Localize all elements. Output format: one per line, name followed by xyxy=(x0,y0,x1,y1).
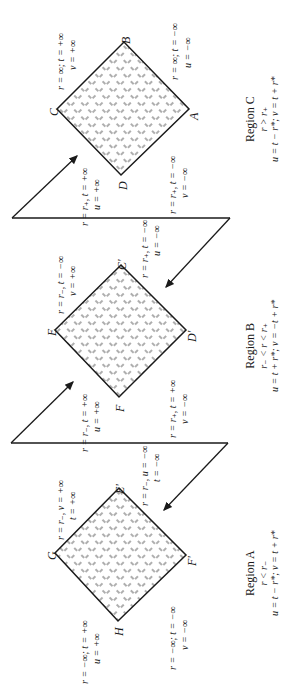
edge-label-hf-1: r = −∞; t = −∞ xyxy=(168,606,178,670)
edge-label-cd-prime-2: u = −∞ xyxy=(152,225,162,256)
edge-label-ef-2: u = +∞ xyxy=(92,401,102,432)
edge-label-ef-prime-1: r = r₋, u = −∞ xyxy=(140,446,150,506)
region-c-caption: Region C r > r₊ u = t − r*; v = t + r* xyxy=(244,76,281,162)
edge-label-da-1: r = r₊, t = −∞ xyxy=(168,156,178,214)
edge-label-ef-1: r = r₋, t = +∞ xyxy=(80,394,90,452)
region-b-caption: Region B r₋ < r < r₊ u = t + r*; v = −t … xyxy=(244,300,281,392)
vertex-label-c-prime: C' xyxy=(116,259,128,270)
vertex-label-c: C xyxy=(48,108,60,116)
region-a-condition: r < r₋ xyxy=(258,530,270,616)
edge-label-cb-1: r = ∞; t = +∞ xyxy=(56,33,66,90)
vertex-label-e-prime: E' xyxy=(114,484,126,494)
region-a-title: Region A xyxy=(244,530,258,616)
region-a-equation: u = t − r*; v = t + r* xyxy=(269,530,281,616)
edge-label-fd-1: r = r₊, t = +∞ xyxy=(168,380,178,438)
edge-label-ef-prime-2: t = −∞ xyxy=(152,454,162,482)
edge-label-cd-prime-1: r = r₊, t = −∞ xyxy=(140,220,150,278)
edge-label-ge-1: r = r₋, v = +∞ xyxy=(56,480,66,540)
edge-label-ba-2: u = −∞ xyxy=(183,37,193,68)
vertex-label-a: A xyxy=(188,113,200,120)
edge-label-hf-2: v = −∞ xyxy=(180,620,190,650)
vertex-label-f-prime: F' xyxy=(186,556,198,566)
edge-label-cb-2: v = +∞ xyxy=(68,40,78,70)
edge-label-ge-2: t = +∞ xyxy=(68,492,78,520)
edge-label-ec-1: r = r₋, t = −∞ xyxy=(56,256,66,314)
edge-label-gh-2: u = +∞ xyxy=(92,633,102,664)
region-c-equation: u = t − r*; v = t + r* xyxy=(269,76,281,162)
region-c-title: Region C xyxy=(244,76,258,162)
region-b-condition: r₋ < r < r₊ xyxy=(258,300,270,392)
vertex-label-e: E xyxy=(46,329,58,336)
vertex-label-d-prime: D' xyxy=(186,331,198,342)
region-a-caption: Region A r < r₋ u = t − r*; v = t + r* xyxy=(244,530,281,616)
edge-label-fd-2: v = −∞ xyxy=(180,394,190,424)
edge-label-da-2: v = −∞ xyxy=(180,168,190,198)
region-b-equation: u = t + r*; v = −t + r* xyxy=(269,300,281,392)
region-b-title: Region B xyxy=(244,300,258,392)
region-c-condition: r > r₊ xyxy=(258,76,270,162)
edge-label-cd-2: u = +∞ xyxy=(92,179,102,210)
vertex-label-h: H xyxy=(113,627,125,636)
vertex-label-d: D xyxy=(117,181,129,190)
edge-label-cd-1: r = r₊, t = +∞ xyxy=(80,168,90,226)
edge-label-ec-2: v = +∞ xyxy=(68,266,78,296)
edge-label-ba-1: r = ∞; t = −∞ xyxy=(170,23,180,80)
vertex-label-g: G xyxy=(46,551,58,560)
vertex-label-b: B xyxy=(120,37,132,44)
penrose-diagram: C B A D r = ∞; t = +∞ v = +∞ r = ∞; t = … xyxy=(0,0,289,687)
edge-label-gh-1: r = −∞; t = +∞ xyxy=(80,620,90,684)
vertex-label-f: F xyxy=(114,405,126,412)
